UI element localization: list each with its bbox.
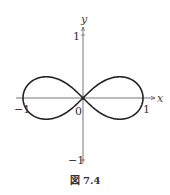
origin-dot	[81, 96, 84, 99]
x-axis-label: x	[157, 92, 164, 105]
x-tick-label-pos-one: 1	[143, 103, 150, 116]
lemniscate-figure: y x 1 −1 −1 1 0	[0, 0, 170, 195]
x-tick-label-neg-one: −1	[14, 103, 30, 116]
y-axis-label: y	[80, 13, 88, 26]
y-tick-label-pos-one: 1	[73, 30, 80, 43]
figure-caption: 図 7.4	[0, 172, 170, 187]
origin-label: 0	[75, 105, 82, 118]
y-tick-label-neg-one: −1	[68, 154, 84, 167]
